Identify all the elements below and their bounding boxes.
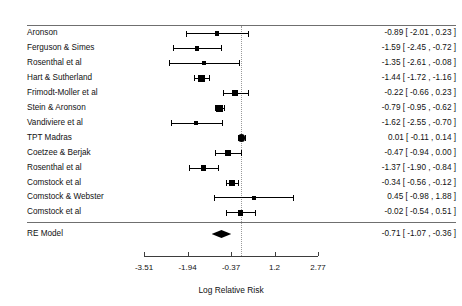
estimate-text: -1.62 [ -2.55 , -0.70 ] [382,119,456,127]
estimate-text: -0.34 [ -0.56 , -0.12 ] [382,179,456,187]
confidence-interval-cap [186,31,187,37]
estimate-text: -1.59 [ -2.45 , -0.72 ] [382,44,456,52]
study-estimate-marker [229,180,236,187]
study-estimate-marker [232,90,238,96]
confidence-interval-cap [209,75,210,81]
study-estimate-marker [198,75,204,81]
study-estimate-marker [194,121,198,125]
study-estimate-marker [252,196,256,200]
summary-estimate-text: -0.71 [ -1.07 , -0.36 ] [382,230,456,238]
x-axis-tick-label: 1.2 [250,264,300,272]
x-axis-tick [144,252,145,256]
x-axis-tick [231,252,232,256]
x-axis-tick-label: -3.51 [119,264,169,272]
study-estimate-marker [201,165,206,170]
x-axis-tick [318,252,319,256]
estimate-text: -0.79 [ -0.95 , -0.62 ] [382,104,456,112]
estimate-text: -0.47 [ -0.94 , 0.00 ] [385,149,456,157]
study-estimate-marker [225,150,231,156]
study-label: Comstock & Webster [27,193,104,201]
study-label: Coetzee & Berjak [27,149,91,157]
x-axis-tick-label: -0.37 [206,264,256,272]
confidence-interval-cap [245,135,246,141]
estimate-text: -0.02 [ -0.54 , 0.51 ] [385,208,456,216]
study-label: Stein & Aronson [27,104,86,112]
estimate-text: 0.01 [ -0.11 , 0.14 ] [388,134,456,142]
confidence-interval-cap [214,195,215,201]
study-label: Comstock et al [27,208,81,216]
study-estimate-marker [238,210,243,215]
confidence-interval-cap [248,90,249,96]
estimate-text: -0.22 [ -0.66 , 0.23 ] [385,89,456,97]
x-axis-tick [188,252,189,256]
confidence-interval-cap [171,120,172,126]
confidence-interval-cap [189,165,190,171]
summary-diamond [212,230,232,238]
confidence-interval-cap [173,45,174,51]
study-estimate-marker [216,105,223,112]
x-axis-title: Log Relative Risk [119,286,343,294]
confidence-interval-cap [241,150,242,156]
confidence-interval-cap [239,60,240,66]
study-label: Ferguson & Simes [27,44,94,52]
confidence-interval-cap [238,180,239,186]
x-axis-tick-label: 2.77 [293,264,343,272]
study-estimate-marker [238,134,245,141]
forest-plot: Aronson-0.89 [ -2.01 , 0.23 ]Ferguson & … [0,0,462,306]
x-axis-tick [275,252,276,256]
study-estimate-marker [195,46,199,50]
study-label: Aronson [27,29,58,37]
summary-label: RE Model [27,230,63,238]
confidence-interval-cap [226,180,227,186]
confidence-interval-cap [224,105,225,111]
confidence-interval-cap [223,90,224,96]
confidence-interval-cap [194,75,195,81]
estimate-text: -0.89 [ -2.01 , 0.23 ] [385,29,456,37]
study-label: Rosenthal et al [27,164,82,172]
study-label: Rosenthal et al [27,59,82,67]
study-label: Vandiviere et al [27,119,83,127]
estimate-text: 0.45 [ -0.98 , 1.88 ] [387,193,456,201]
estimate-text: -1.44 [ -1.72 , -1.16 ] [382,74,456,82]
study-label: TPT Madras [27,134,72,142]
confidence-interval-cap [169,60,170,66]
confidence-interval-cap [226,210,227,216]
confidence-interval-cap [255,210,256,216]
study-estimate-marker [202,61,206,65]
study-label: Hart & Sutherland [27,74,92,82]
confidence-interval-cap [248,31,249,37]
x-axis-line [144,256,318,257]
confidence-interval-cap [221,45,222,51]
confidence-interval-cap [215,150,216,156]
x-axis-tick-label: -1.94 [163,264,213,272]
estimate-text: -1.37 [ -1.90 , -0.84 ] [382,164,456,172]
study-label: Frimodt-Moller et al [27,89,98,97]
study-estimate-marker [215,31,219,35]
confidence-interval-cap [222,120,223,126]
confidence-interval-cap [293,195,294,201]
estimate-text: -1.35 [ -2.61 , -0.08 ] [382,59,456,67]
confidence-interval-cap [218,165,219,171]
study-label: Comstock et al [27,179,81,187]
